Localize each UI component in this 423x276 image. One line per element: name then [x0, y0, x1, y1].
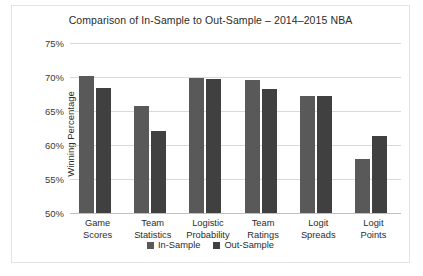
x-tick-label: LogitSpreads [291, 218, 346, 241]
chart-legend: In-SampleOut-Sample [12, 240, 409, 250]
bar-group: LogisticProbability [180, 43, 235, 213]
bar-in-sample[interactable] [134, 106, 149, 213]
bar-group: GameScores [70, 43, 125, 213]
bar-in-sample[interactable] [355, 159, 370, 213]
y-tick-label: 60% [45, 140, 64, 151]
bar-out-sample[interactable] [151, 131, 166, 213]
x-tick-label: LogisticProbability [180, 218, 235, 241]
x-tick-label: LogitPoints [346, 218, 401, 241]
bar-out-sample[interactable] [317, 96, 332, 213]
x-tick-label: TeamRatings [236, 218, 291, 241]
chart-container: Comparison of In-Sample to Out-Sample – … [11, 5, 410, 263]
bar-group: TeamRatings [236, 43, 291, 213]
bar-group: LogitSpreads [291, 43, 346, 213]
gridline-50 [70, 213, 401, 214]
legend-swatch-icon [213, 242, 220, 249]
legend-item-out-sample[interactable]: Out-Sample [213, 240, 274, 250]
y-tick-label: 65% [45, 106, 64, 117]
bar-in-sample[interactable] [300, 96, 315, 213]
bar-group: TeamStatistics [125, 43, 180, 213]
bar-out-sample[interactable] [206, 79, 221, 213]
bar-out-sample[interactable] [372, 136, 387, 213]
chart-title: Comparison of In-Sample to Out-Sample – … [12, 14, 409, 26]
x-tick-label: GameScores [70, 218, 125, 241]
bar-in-sample[interactable] [189, 78, 204, 213]
y-tick-label: 50% [45, 208, 64, 219]
legend-label: In-Sample [158, 240, 200, 250]
bar-in-sample[interactable] [79, 76, 94, 213]
legend-label: Out-Sample [224, 240, 274, 250]
bar-in-sample[interactable] [245, 80, 260, 213]
bar-out-sample[interactable] [96, 88, 111, 213]
plot-area: 75%70%65%60%55%50% GameScoresTeamStatist… [70, 43, 401, 213]
x-tick-label: TeamStatistics [125, 218, 180, 241]
y-tick-label: 70% [45, 72, 64, 83]
bar-out-sample[interactable] [262, 89, 277, 213]
bar-group: LogitPoints [346, 43, 401, 213]
legend-item-in-sample[interactable]: In-Sample [147, 240, 200, 250]
y-tick-label: 55% [45, 174, 64, 185]
legend-swatch-icon [147, 242, 154, 249]
y-tick-label: 75% [45, 38, 64, 49]
